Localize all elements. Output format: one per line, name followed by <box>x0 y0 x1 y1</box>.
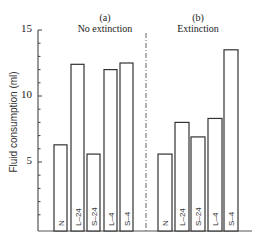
bar-label: S–4 <box>227 211 236 226</box>
bar-label: L–4 <box>211 212 220 226</box>
bar-label: N <box>161 220 170 226</box>
bar-a-1 <box>71 64 84 231</box>
bar-label: S–4 <box>123 211 132 226</box>
bar-a-4 <box>120 63 133 231</box>
bar-label: S–24 <box>194 207 203 226</box>
bar-a-0 <box>54 145 67 231</box>
bar-label: S–24 <box>90 207 99 226</box>
bar-b-0 <box>158 154 172 231</box>
bar-label: N <box>57 220 66 226</box>
bar-a-3 <box>104 70 117 231</box>
bar-chart: NL–24S–24L–4S–4NL–24S–24L–4S–4 <box>0 0 260 243</box>
bar-label: L–24 <box>178 208 187 226</box>
bar-label: L–24 <box>74 208 83 226</box>
bar-label: L–4 <box>107 212 116 226</box>
bar-b-4 <box>224 50 238 231</box>
